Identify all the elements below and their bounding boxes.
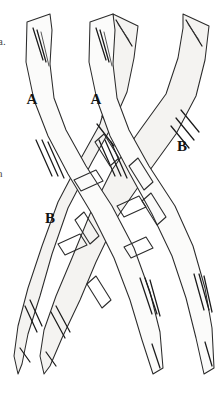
figure-root: a. h xyxy=(0,0,219,396)
fiber-label-b-left: B xyxy=(45,210,55,226)
striation xyxy=(181,110,199,132)
fiber-label-a-right: A xyxy=(91,91,102,107)
fiber-label-b-right: B xyxy=(177,138,187,154)
fiber-bundle-illustration: A A B B xyxy=(0,0,219,396)
fiber-label-a-left: A xyxy=(27,91,38,107)
cross-block xyxy=(87,276,111,308)
